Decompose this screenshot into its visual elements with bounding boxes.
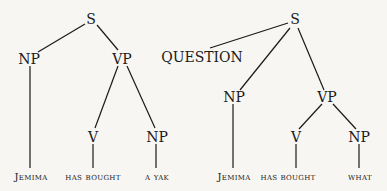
right-question-node: QUESTION: [161, 50, 243, 64]
left-word-a-yak: a yak: [145, 172, 169, 182]
left-s-node: S: [86, 12, 96, 26]
syntax-tree-diagram: S NP VP V NP Jemima has bought a yak S Q…: [0, 0, 387, 191]
right-s-node: S: [290, 12, 300, 26]
left-word-has-bought: has bought: [65, 172, 120, 182]
right-word-what: what: [348, 172, 372, 182]
right-word-has: has: [261, 172, 278, 182]
left-word-jemima: Jemima: [14, 172, 47, 182]
left-np2-node: NP: [146, 130, 168, 144]
left-vp-node: VP: [112, 52, 132, 66]
left-v-node: V: [88, 130, 98, 144]
right-np2-node: NP: [348, 130, 370, 144]
right-word-bought: bought: [280, 172, 315, 182]
right-np-node: NP: [223, 90, 245, 104]
left-np-node: NP: [18, 52, 40, 66]
right-v-node: V: [291, 130, 301, 144]
right-word-jemima: Jemima: [217, 172, 250, 182]
right-vp-node: VP: [317, 90, 337, 104]
